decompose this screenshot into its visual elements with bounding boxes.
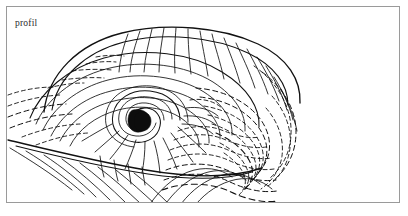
figure-root: profil	[0, 0, 408, 216]
figure-caption-profil: profil	[15, 17, 37, 29]
figure-frame-border	[6, 6, 400, 203]
